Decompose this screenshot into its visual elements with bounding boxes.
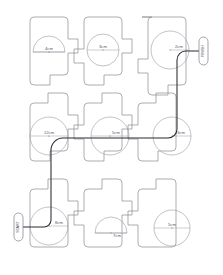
centre-dot bbox=[48, 135, 49, 136]
tile-r2c2[interactable] bbox=[74, 93, 132, 161]
dimension-label-r3c2: 7cm bbox=[113, 233, 121, 238]
tile-r3c2[interactable] bbox=[74, 179, 132, 247]
dimension-label-r1c3: 2cm bbox=[175, 44, 183, 49]
traced-route bbox=[22, 51, 202, 227]
shape-r1c2: 3cm bbox=[87, 34, 119, 66]
shape-r1c1: 4cm bbox=[33, 36, 65, 53]
tile-r1c3[interactable] bbox=[138, 17, 186, 95]
dimension-label-r1c1: 4cm bbox=[45, 46, 53, 51]
shape-r3c3: 5cm bbox=[154, 210, 190, 246]
start-label: START bbox=[16, 220, 20, 232]
tile-r3c1[interactable] bbox=[30, 179, 78, 247]
start-endpoint[interactable]: START bbox=[14, 213, 23, 241]
centre-dot bbox=[102, 49, 103, 50]
finish-label: FINISH bbox=[201, 45, 205, 57]
centre-dot bbox=[169, 49, 170, 50]
dimension-label-r3c3: 5cm bbox=[168, 222, 176, 227]
centre-dot bbox=[110, 232, 111, 233]
centre-dot bbox=[48, 51, 49, 52]
dimension-label-r1c2: 3cm bbox=[99, 44, 107, 49]
shape-r2c1: 12cm bbox=[30, 117, 68, 155]
tile-r1c2[interactable] bbox=[74, 17, 132, 85]
shape-r2c2: 5cm bbox=[91, 117, 129, 155]
shape-r3c1: 8cm bbox=[30, 207, 68, 245]
tile-r3c3[interactable] bbox=[128, 179, 176, 247]
tile-r2c3[interactable] bbox=[128, 93, 176, 161]
centre-dot bbox=[171, 227, 172, 228]
shape-r2c3: 3cm bbox=[153, 117, 191, 155]
worksheet-canvas: 4cm 3cm 2cm 12cm 5cm bbox=[0, 0, 223, 275]
centre-dot bbox=[109, 135, 110, 136]
shape-r1c3: 2cm bbox=[151, 31, 189, 69]
finish-endpoint[interactable]: FINISH bbox=[199, 37, 208, 65]
dimension-label-r2c2: 5cm bbox=[112, 130, 120, 135]
dimension-label-r2c1: 12cm bbox=[44, 130, 55, 135]
dimension-label-r3c1: 8cm bbox=[55, 220, 63, 225]
tile-r1c1[interactable] bbox=[30, 17, 78, 85]
dimension-label-r2c3: 3cm bbox=[177, 130, 185, 135]
